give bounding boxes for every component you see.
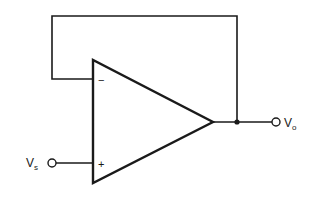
output-label: Vo bbox=[284, 116, 297, 132]
inverting-input-sign: − bbox=[98, 74, 104, 86]
input-terminal bbox=[48, 159, 56, 167]
junction-dot bbox=[234, 119, 239, 124]
output-terminal bbox=[272, 118, 280, 126]
op-amp-triangle bbox=[93, 60, 213, 183]
non-inverting-input-sign: + bbox=[98, 158, 104, 170]
voltage-follower-diagram: − + Vo Vs bbox=[0, 0, 317, 202]
input-label: Vs bbox=[26, 156, 38, 172]
